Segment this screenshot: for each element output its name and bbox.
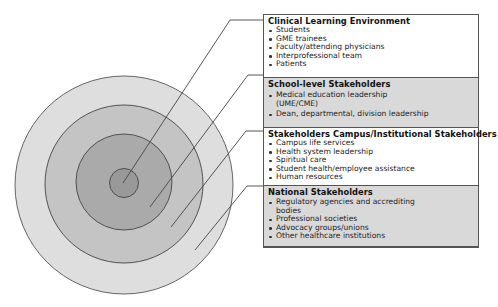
list-item: Patients — [268, 60, 474, 69]
section-campus-institutional-stakeholders: Stakeholders Campus/Institutional Stakeh… — [264, 128, 478, 186]
legend-panel: Clinical Learning Environment Students G… — [263, 14, 479, 248]
section-title: School-level Stakeholders — [268, 79, 474, 89]
section-title: National Stakeholders — [268, 187, 474, 197]
list-item: Medical education leadership (UME/CME) — [268, 91, 396, 108]
list-item: Regulatory agencies and accrediting bodi… — [268, 198, 426, 215]
list-item: Human resources — [268, 173, 474, 182]
item-list: Regulatory agencies and accrediting bodi… — [268, 198, 474, 241]
section-clinical-learning-environment: Clinical Learning Environment Students G… — [264, 15, 478, 78]
list-item: Other healthcare institutions — [268, 232, 474, 241]
item-list: Students GME trainees Faculty/attending … — [268, 26, 474, 69]
section-school-level-stakeholders: School-level Stakeholders Medical educat… — [264, 78, 478, 128]
section-national-stakeholders: National Stakeholders Regulatory agencie… — [264, 186, 478, 246]
item-list: Campus life services Health system leade… — [268, 139, 474, 182]
list-item: Dean, departmental, division leadership — [268, 110, 474, 119]
item-list: Medical education leadership (UME/CME) D… — [268, 91, 474, 119]
ring-clinical-learning — [110, 169, 139, 198]
